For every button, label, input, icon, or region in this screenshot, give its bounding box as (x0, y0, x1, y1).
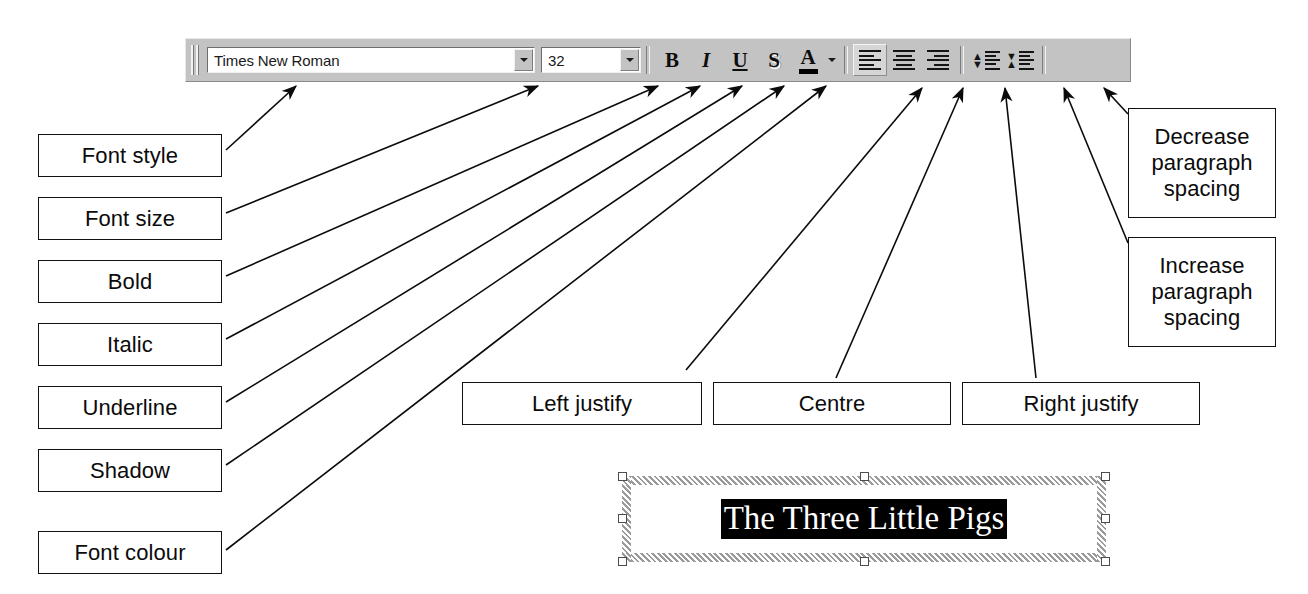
text-box-interior[interactable]: The Three Little Pigs (631, 485, 1097, 553)
shadow-button[interactable]: S (757, 44, 791, 76)
underline-icon: U (732, 50, 747, 71)
decrease-paragraph-spacing-button[interactable]: ▲▼ (969, 44, 1003, 76)
label-text-line1: Decrease (1155, 124, 1250, 150)
font-size-combobox[interactable]: 32 (541, 47, 641, 73)
label-bold: Bold (38, 260, 222, 303)
label-text-line2: paragraph (1151, 150, 1252, 176)
shadow-icon: S (768, 50, 780, 71)
label-text: Underline (82, 395, 177, 421)
arrow-centre (836, 88, 963, 378)
align-left-button[interactable] (853, 44, 887, 76)
label-text: Bold (108, 269, 152, 295)
decrease-paragraph-spacing-icon: ▲▼ (972, 51, 1000, 70)
triangle-down-shape (626, 58, 634, 62)
arrow-font-size (226, 86, 538, 213)
triangle-down-shape (828, 58, 836, 62)
arrow-left-justify (686, 88, 922, 370)
font-colour-letter: A (800, 47, 815, 68)
diagram-canvas: Times New Roman 32 B I U S A (0, 0, 1308, 594)
label-text: Right justify (1023, 391, 1138, 417)
resize-handle-top-right[interactable] (1101, 472, 1110, 481)
arrow-italic (226, 86, 700, 339)
label-left-justify: Left justify (462, 382, 702, 425)
arrow-underline (226, 86, 742, 402)
label-font-style: Font style (38, 134, 222, 177)
align-left-icon (859, 50, 881, 70)
resize-handle-bottom-right[interactable] (1101, 557, 1110, 566)
label-text: Shadow (90, 458, 170, 484)
resize-handle-middle-right[interactable] (1101, 514, 1110, 523)
label-increase-paragraph-spacing: Increase paragraph spacing (1128, 237, 1276, 347)
formatting-toolbar: Times New Roman 32 B I U S A (185, 38, 1131, 82)
label-centre: Centre (713, 382, 951, 425)
toolbar-separator (960, 46, 964, 74)
label-decrease-paragraph-spacing: Decrease paragraph spacing (1128, 108, 1276, 218)
resize-handle-top-centre[interactable] (860, 472, 869, 481)
increase-paragraph-spacing-icon: ▼▲ (1006, 51, 1034, 70)
align-centre-icon (893, 50, 915, 70)
label-text-line2: paragraph (1151, 279, 1252, 305)
label-text: Left justify (532, 391, 632, 417)
label-text-line3: spacing (1164, 176, 1241, 202)
label-shadow: Shadow (38, 449, 222, 492)
label-font-size: Font size (38, 197, 222, 240)
arrow-right-justify (1005, 88, 1036, 378)
resize-handle-middle-left[interactable] (618, 514, 627, 523)
arrow-bold (226, 86, 658, 276)
selected-text[interactable]: The Three Little Pigs (721, 499, 1008, 539)
chevron-down-icon[interactable] (514, 49, 533, 71)
label-text-line1: Increase (1159, 253, 1244, 279)
arrow-font-style (226, 86, 296, 150)
bold-icon: B (665, 50, 679, 71)
label-underline: Underline (38, 386, 222, 429)
arrow-decrease-spacing (1104, 88, 1128, 114)
bold-button[interactable]: B (655, 44, 689, 76)
label-text: Font colour (74, 540, 185, 566)
toolbar-drag-grip[interactable] (191, 45, 200, 75)
toolbar-separator (844, 46, 848, 74)
font-size-value[interactable]: 32 (542, 52, 620, 69)
font-colour-button[interactable]: A (791, 44, 825, 76)
font-colour-icon: A (799, 47, 818, 74)
resize-handle-bottom-centre[interactable] (860, 557, 869, 566)
resize-handle-top-left[interactable] (618, 472, 627, 481)
selected-text-box[interactable]: The Three Little Pigs (622, 476, 1106, 562)
label-italic: Italic (38, 323, 222, 366)
align-right-icon (927, 50, 949, 70)
toolbar-separator (1042, 46, 1046, 74)
chevron-down-icon[interactable] (620, 49, 639, 71)
toolbar-separator (646, 46, 650, 74)
label-text: Font size (85, 206, 175, 232)
label-right-justify: Right justify (962, 382, 1200, 425)
italic-button[interactable]: I (689, 44, 723, 76)
font-colour-swatch (799, 69, 818, 74)
triangle-down-shape (520, 58, 528, 62)
italic-icon: I (702, 50, 710, 71)
label-text: Font style (82, 143, 178, 169)
align-right-button[interactable] (921, 44, 955, 76)
label-text-line3: spacing (1164, 305, 1241, 331)
font-colour-dropdown-icon[interactable] (825, 44, 839, 76)
arrow-increase-spacing (1064, 88, 1128, 243)
resize-handle-bottom-left[interactable] (618, 557, 627, 566)
label-text: Italic (107, 332, 153, 358)
label-text: Centre (799, 391, 866, 417)
font-family-combobox[interactable]: Times New Roman (207, 47, 535, 73)
font-family-value[interactable]: Times New Roman (208, 52, 514, 69)
underline-button[interactable]: U (723, 44, 757, 76)
align-centre-button[interactable] (887, 44, 921, 76)
increase-paragraph-spacing-button[interactable]: ▼▲ (1003, 44, 1037, 76)
label-font-colour: Font colour (38, 531, 222, 574)
